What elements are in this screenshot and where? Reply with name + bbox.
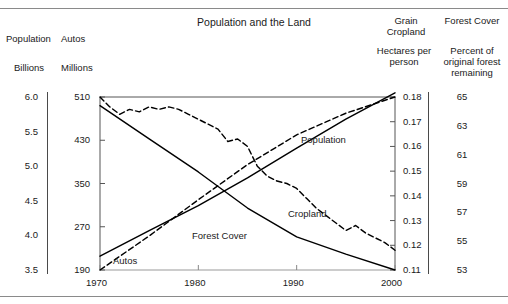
series-label-population: Population <box>301 135 346 146</box>
series-label-autos: Autos <box>113 256 137 267</box>
series-label-forest-cover: Forest Cover <box>192 231 247 242</box>
series-line-autos <box>100 97 395 270</box>
series-line-forest-cover <box>100 106 395 270</box>
series-label-cropland: Cropland <box>288 209 327 220</box>
chart-plot-area <box>0 0 508 304</box>
series-line-population <box>100 93 395 256</box>
series-line-cropland <box>100 97 395 250</box>
